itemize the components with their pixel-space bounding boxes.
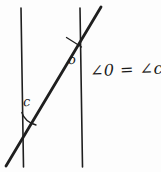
right-parallel-line — [80, 8, 83, 167]
geometry-diagram: o c ∠0 = ∠c — [0, 0, 161, 172]
angle-label-o: o — [67, 52, 76, 68]
left-parallel-line — [21, 8, 24, 167]
angle-label-c: c — [23, 94, 31, 109]
diagram-canvas — [0, 0, 161, 172]
angle-equality-equation: ∠0 = ∠c — [90, 59, 161, 81]
transversal-line — [6, 7, 101, 166]
